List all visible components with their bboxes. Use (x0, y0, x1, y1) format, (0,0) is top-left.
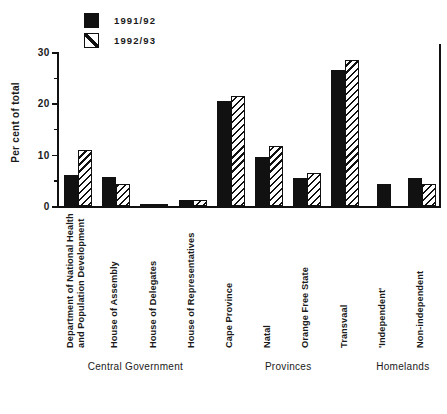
bar-group (403, 52, 441, 206)
bar-group (288, 52, 326, 206)
bar (64, 175, 78, 206)
y-axis-title-text: Per cent of total (10, 82, 21, 163)
y-tick-label-0: 0 (44, 201, 50, 212)
legend-item-1991-92: 1991/92 (84, 10, 234, 30)
bar (179, 200, 193, 206)
group-bracket-label: Homelands (376, 361, 429, 372)
bar-groups (59, 52, 441, 206)
bar (116, 184, 130, 206)
group-bracket-labels: Central GovernmentProvincesHomelands (0, 361, 447, 377)
bar (307, 173, 321, 206)
chart-legend: 1991/92 1992/93 (84, 10, 234, 50)
y-tick-label-20: 20 (38, 98, 50, 109)
bar (269, 146, 283, 206)
bar-group (212, 52, 250, 206)
x-axis-line (57, 206, 441, 208)
y-tick-minor-15 (54, 129, 58, 130)
group-bracket-label: Provinces (265, 361, 312, 372)
figure-caption (38, 404, 438, 414)
bar (408, 178, 422, 206)
bar (293, 178, 307, 206)
chart-plot-area: 30 20 10 0 (57, 52, 441, 206)
bar (217, 101, 231, 206)
legend-label-1992-93: 1992/93 (114, 35, 156, 46)
bar-group (250, 52, 288, 206)
bar (331, 70, 345, 206)
x-axis-category-label: Natal (267, 210, 285, 350)
bar-group (174, 52, 212, 206)
bar-group (326, 52, 364, 206)
bar (154, 204, 168, 206)
bar-group (135, 52, 173, 206)
x-axis-category-labels: Department of National Healthand Populat… (57, 210, 441, 350)
y-axis-title: Per cent of total (8, 62, 22, 182)
bar (377, 184, 391, 206)
bar (345, 60, 359, 206)
bar-group (365, 52, 403, 206)
bar (231, 96, 245, 206)
bar (193, 200, 207, 206)
bar (78, 150, 92, 206)
bar (422, 184, 436, 206)
bar-group (59, 52, 97, 206)
bar (102, 177, 116, 206)
bar (255, 157, 269, 206)
x-axis-category-label: Non-independent (420, 210, 447, 350)
legend-swatch-hatched-white-square (84, 33, 99, 48)
y-tick-label-30: 30 (38, 47, 50, 58)
legend-label-1991-92: 1991/92 (114, 15, 156, 26)
group-bracket-label: Central Government (88, 361, 183, 372)
y-tick-label-10: 10 (38, 149, 50, 160)
bar-group (97, 52, 135, 206)
bar (140, 204, 154, 206)
y-tick-minor-25 (54, 78, 58, 79)
legend-item-1992-93: 1992/93 (84, 30, 234, 50)
legend-swatch-solid-black-square (84, 13, 99, 28)
y-tick-minor-5 (54, 180, 58, 181)
